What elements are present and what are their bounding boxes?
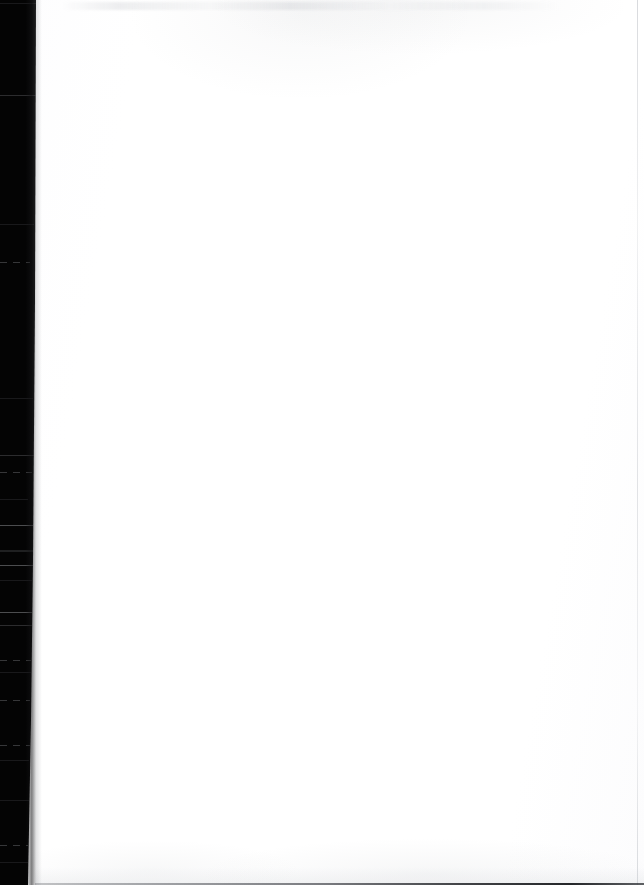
scan-streak (0, 565, 33, 566)
scan-streak (0, 95, 36, 96)
scan-streak (0, 672, 31, 673)
scan-streak (0, 262, 30, 263)
scan-streak (0, 745, 30, 746)
scan-streak (0, 862, 28, 863)
scan-streak (0, 612, 33, 613)
scan-streak (0, 760, 29, 761)
scan-streak (0, 499, 28, 500)
scan-streak (0, 525, 34, 526)
scan-streak (0, 455, 34, 456)
scan-streak (0, 800, 29, 801)
scan-streak (0, 3, 36, 4)
scan-streak (0, 550, 33, 552)
scan-streak (0, 700, 30, 701)
scan-streak (0, 224, 34, 225)
bottom-edge-wash (35, 867, 644, 883)
scan-streak (0, 625, 32, 626)
scan-streak (0, 398, 33, 399)
top-edge-smudge (60, 2, 560, 10)
scan-streak (0, 845, 28, 846)
page-body-text (70, 60, 610, 820)
scan-streak (0, 580, 32, 581)
scan-streak (0, 472, 32, 473)
scan-streak (0, 660, 31, 661)
right-trim-line (637, 0, 638, 885)
scanned-page (0, 0, 644, 885)
